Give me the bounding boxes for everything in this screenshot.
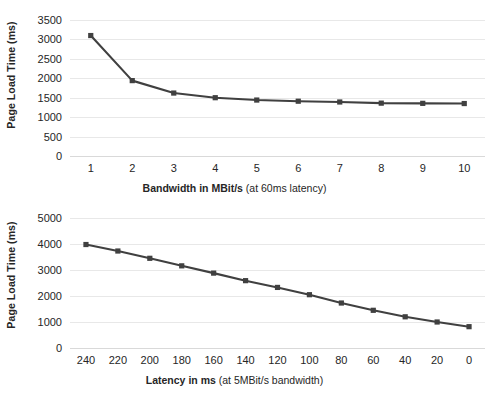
data-point-marker: [339, 300, 344, 305]
latency-chart-panel: Page Load Time (ms) 01000200030004000500…: [0, 200, 469, 403]
x-tick-label: 3: [171, 163, 177, 174]
bandwidth-chart-y-axis-label-text: Page Load Time (ms): [5, 21, 17, 128]
latency-chart-y-tick-labels: 010002000300040005000: [22, 218, 66, 348]
data-point-marker: [462, 101, 467, 106]
x-tick-label: 160: [204, 355, 222, 366]
data-point-marker: [213, 95, 218, 100]
x-tick-label: 240: [77, 355, 95, 366]
x-tick-label: 120: [268, 355, 286, 366]
bandwidth-chart-x-axis-label: Bandwidth in MBit/s (at 60ms latency): [0, 182, 469, 194]
bandwidth-chart-y-axis-label: Page Load Time (ms): [0, 0, 22, 150]
data-point-marker: [243, 278, 248, 283]
x-tick-label: 5: [254, 163, 260, 174]
data-point-marker: [275, 285, 280, 290]
bandwidth-chart-y-tick-labels: 0500100015002000250030003500: [22, 20, 66, 156]
data-point-marker: [420, 101, 425, 106]
latency-chart-plot-area: [70, 218, 485, 348]
y-tick-label: 2000: [38, 291, 62, 302]
y-tick-label: 1500: [38, 92, 62, 103]
x-tick-label: 9: [420, 163, 426, 174]
latency-chart-x-axis-label-bold: Latency in ms: [146, 374, 216, 386]
data-point-marker: [254, 97, 259, 102]
gridline: [70, 156, 485, 157]
data-series: [70, 20, 485, 156]
x-tick-label: 4: [212, 163, 218, 174]
y-tick-label: 4000: [38, 239, 62, 250]
y-tick-label: 5000: [38, 213, 62, 224]
y-tick-label: 2000: [38, 73, 62, 84]
x-tick-label: 8: [378, 163, 384, 174]
data-point-marker: [211, 271, 216, 276]
data-point-marker: [296, 99, 301, 104]
data-point-marker: [179, 263, 184, 268]
bandwidth-chart-x-axis-label-note: (at 60ms latency): [246, 182, 327, 194]
data-point-marker: [115, 248, 120, 253]
x-tick-label: 220: [109, 355, 127, 366]
latency-chart-y-axis-label: Page Load Time (ms): [0, 200, 22, 350]
y-tick-label: 0: [56, 151, 62, 162]
y-tick-label: 2500: [38, 53, 62, 64]
x-tick-label: 1: [88, 163, 94, 174]
data-point-marker: [147, 256, 152, 261]
data-point-marker: [371, 308, 376, 313]
y-tick-label: 1000: [38, 112, 62, 123]
bandwidth-chart-x-axis-label-bold: Bandwidth in MBit/s: [143, 182, 243, 194]
y-tick-label: 3000: [38, 265, 62, 276]
x-tick-label: 0: [466, 355, 472, 366]
x-tick-label: 80: [335, 355, 347, 366]
y-tick-label: 500: [44, 131, 62, 142]
x-tick-label: 180: [173, 355, 191, 366]
data-point-marker: [88, 33, 93, 38]
x-tick-label: 20: [431, 355, 443, 366]
y-tick-label: 1000: [38, 317, 62, 328]
gridline: [70, 348, 485, 349]
series-line: [91, 36, 465, 104]
x-tick-label: 6: [295, 163, 301, 174]
x-tick-label: 40: [399, 355, 411, 366]
x-tick-label: 140: [236, 355, 254, 366]
data-point-marker: [307, 292, 312, 297]
x-tick-label: 2: [129, 163, 135, 174]
x-tick-label: 7: [337, 163, 343, 174]
bandwidth-chart-plot-area: [70, 20, 485, 156]
data-point-marker: [379, 101, 384, 106]
x-tick-label: 60: [367, 355, 379, 366]
data-point-marker: [83, 242, 88, 247]
data-point-marker: [130, 78, 135, 83]
data-point-marker: [337, 99, 342, 104]
latency-chart-y-axis-label-text: Page Load Time (ms): [5, 221, 17, 328]
data-point-marker: [171, 90, 176, 95]
data-point-marker: [403, 314, 408, 319]
data-point-marker: [466, 324, 471, 329]
data-series: [70, 218, 485, 348]
y-tick-label: 0: [56, 343, 62, 354]
y-tick-label: 3500: [38, 15, 62, 26]
x-tick-label: 200: [141, 355, 159, 366]
bandwidth-chart-panel: Page Load Time (ms) 05001000150020002500…: [0, 0, 469, 200]
x-tick-label: 100: [300, 355, 318, 366]
latency-chart-x-axis-label-note: (at 5MBit/s bandwidth): [219, 374, 323, 386]
latency-chart-x-axis-label: Latency in ms (at 5MBit/s bandwidth): [0, 374, 469, 386]
y-tick-label: 3000: [38, 34, 62, 45]
data-point-marker: [435, 319, 440, 324]
x-tick-label: 10: [458, 163, 470, 174]
